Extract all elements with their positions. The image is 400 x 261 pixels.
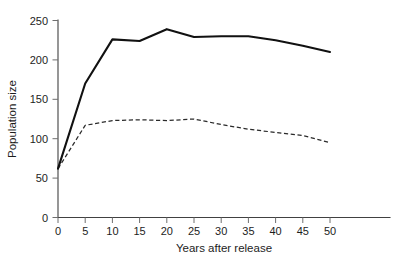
x-tick-label-15: 15 xyxy=(133,225,145,237)
x-tick-label-5: 5 xyxy=(82,225,88,237)
y-axis-ticks: 0 50 100 150 200 250 xyxy=(30,15,58,224)
y-tick-label-250: 250 xyxy=(30,15,48,27)
y-tick-label-150: 150 xyxy=(30,93,48,105)
series-line-dashed xyxy=(58,119,330,169)
x-axis-ticks: 0 5 10 15 20 25 30 35 40 45 50 xyxy=(55,218,336,238)
x-tick-label-10: 10 xyxy=(106,225,118,237)
y-tick-label-0: 0 xyxy=(42,212,48,224)
x-tick-label-0: 0 xyxy=(55,225,61,237)
x-tick-label-25: 25 xyxy=(188,225,200,237)
y-axis-title: Population size xyxy=(6,80,18,158)
chart-container: 0 50 100 150 200 250 0 5 10 15 20 25 xyxy=(0,0,400,261)
x-tick-label-20: 20 xyxy=(161,225,173,237)
line-chart: 0 50 100 150 200 250 0 5 10 15 20 25 xyxy=(0,0,400,261)
x-tick-label-45: 45 xyxy=(297,225,309,237)
y-tick-label-100: 100 xyxy=(30,133,48,145)
series-line-solid xyxy=(58,29,330,168)
x-tick-label-30: 30 xyxy=(215,225,227,237)
x-tick-label-35: 35 xyxy=(242,225,254,237)
y-tick-label-50: 50 xyxy=(36,172,48,184)
x-tick-label-40: 40 xyxy=(269,225,281,237)
y-tick-label-200: 200 xyxy=(30,54,48,66)
x-axis-title: Years after release xyxy=(176,242,272,254)
x-tick-label-50: 50 xyxy=(324,225,336,237)
